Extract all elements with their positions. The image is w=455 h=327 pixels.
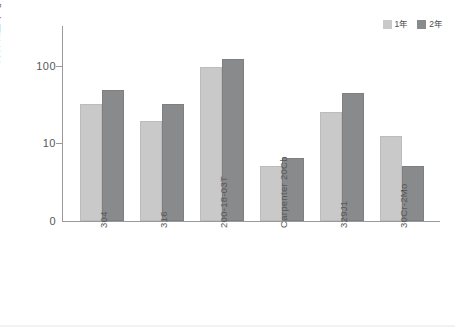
x-axis-line (62, 221, 440, 222)
y-tick-label-10: 10 (16, 137, 56, 149)
x-tick-label-329J1: 329J1 (338, 201, 349, 228)
x-tick-label-304: 304 (98, 211, 109, 228)
y-tick-label-0: 0 (16, 215, 56, 227)
y-tick-label-100: 100 (16, 60, 56, 72)
x-axis-labels: 304 316 200-18-03T Carpenter 20Cb 329J1 … (62, 0, 440, 100)
bar-316-series-2 (162, 104, 184, 221)
x-tick-label-316: 316 (158, 211, 169, 228)
bar-chart: 1年 2年 腐食減量 (mg/cm²) 100 10 0 (0, 0, 455, 327)
bar-316-series-1 (140, 121, 162, 221)
bar-304-series-1 (80, 104, 102, 221)
y-axis-title: 腐食減量 (mg/cm²) (0, 0, 2, 64)
x-tick-label-30Cr-2Mo: 30Cr-2Mo (398, 183, 409, 228)
x-tick-label-200-18-03T: 200-18-03T (218, 176, 229, 228)
x-tick-label-Carpenter-20Cb: Carpenter 20Cb (278, 156, 289, 228)
y-tick-10 (56, 143, 63, 144)
bar-304-series-2 (102, 90, 124, 221)
